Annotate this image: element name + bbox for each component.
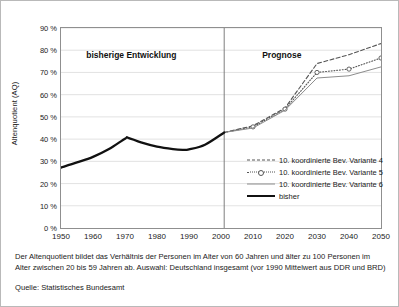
chart-legend: 10. koordinierte Bev. Variante 4 10. koo… (247, 154, 393, 202)
x-axis-tick-label: 2050 (372, 232, 390, 241)
legend-swatch-dashed-icon (247, 155, 275, 165)
legend-label: 10. koordinierte Bev. Variante 6 (279, 180, 383, 189)
legend-item-variante-6: 10. koordinierte Bev. Variante 6 (247, 178, 393, 190)
series-marker (347, 67, 351, 71)
footnote-text: Der Altenquotient bildet das Verhältnis … (15, 251, 386, 274)
annotation-prognose: Prognose (262, 50, 301, 60)
x-axis-tick-label: 2010 (244, 232, 262, 241)
source-text: Quelle: Statistisches Bundesamt (15, 282, 386, 293)
series-marker (315, 70, 319, 74)
x-axis-tick-label: 1960 (84, 232, 102, 241)
chart-figure: Altenquotient (AQ) 0 %10 %20 %30 %40 %50… (0, 0, 399, 307)
x-axis-tick-label: 1980 (148, 232, 166, 241)
figure-footer: Der Altenquotient bildet das Verhältnis … (1, 251, 399, 293)
series-line (61, 132, 224, 167)
x-axis-tick-label: 2040 (340, 232, 358, 241)
series-line (224, 44, 381, 133)
x-axis-tick-label: 2030 (308, 232, 326, 241)
legend-swatch-solid-thin-icon (247, 179, 275, 189)
x-axis-tick-label: 1950 (52, 232, 70, 241)
series-line (224, 67, 381, 133)
series-line (224, 58, 381, 132)
x-axis-tick-label: 1990 (180, 232, 198, 241)
legend-item-variante-5: 10. koordinierte Bev. Variante 5 (247, 166, 393, 178)
legend-item-bisher: bisher (247, 190, 393, 202)
legend-label: 10. koordinierte Bev. Variante 5 (279, 168, 383, 177)
legend-item-variante-4: 10. koordinierte Bev. Variante 4 (247, 154, 393, 166)
annotation-bisherige-entwicklung: bisherige Entwicklung (86, 50, 176, 60)
series-marker (379, 56, 381, 60)
legend-swatch-solid-thick-icon (247, 191, 275, 201)
chart-area: Altenquotient (AQ) 0 %10 %20 %30 %40 %50… (1, 1, 399, 249)
legend-label: bisher (279, 192, 299, 201)
legend-label: 10. koordinierte Bev. Variante 4 (279, 156, 383, 165)
x-axis-tick-label: 1970 (116, 232, 134, 241)
x-axis-tick-label: 2020 (276, 232, 294, 241)
x-axis-tick-label: 2000 (212, 232, 230, 241)
legend-swatch-dotted-marker-icon (247, 167, 275, 177)
